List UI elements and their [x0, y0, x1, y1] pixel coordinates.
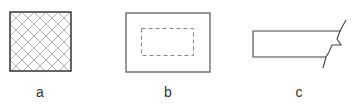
- figure-label-a: a: [30, 84, 50, 100]
- figure-label-b: b: [158, 84, 178, 100]
- figure-c-break-rectangle: [253, 20, 346, 68]
- figure-a-crosshatch-square: [0, 12, 130, 72]
- figure-label-c: c: [289, 84, 309, 100]
- figure-b-dashed-rectangle: [126, 13, 210, 72]
